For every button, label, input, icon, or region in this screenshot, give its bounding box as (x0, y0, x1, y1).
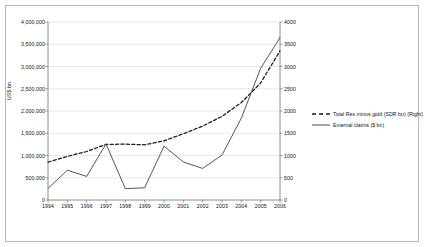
x-tick-label: 1994 (42, 203, 54, 209)
chart-legend: Total Res minus gold (SDR bn) (Right)Ext… (312, 109, 416, 131)
y-tick-label-right: 1000 (284, 153, 296, 159)
x-tick-label: 2003 (216, 203, 228, 209)
y-tick-label-right: 2500 (284, 86, 296, 92)
y-tick-label-left: 1,500,000 (21, 130, 45, 136)
x-tick-label: 2002 (197, 203, 209, 209)
y-tick-label-right: 3000 (284, 64, 296, 70)
plot-svg (48, 22, 280, 200)
series-line-1 (48, 51, 280, 162)
y-tick-label-right: 1500 (284, 130, 296, 136)
x-tick-label: 2000 (158, 203, 170, 209)
y-tick-label-right: 3500 (284, 41, 296, 47)
x-tick-label: 2001 (177, 203, 189, 209)
legend-item[interactable]: Total Res minus gold (SDR bn) (Right) (312, 109, 416, 119)
x-tick-label: 1997 (100, 203, 112, 209)
legend-item[interactable]: External claims ($ bn) (312, 120, 416, 130)
y-tick-label-left: 1,000,000 (21, 153, 45, 159)
legend-label: Total Res minus gold (SDR bn) (Right) (333, 111, 423, 117)
x-tick-label: 1996 (81, 203, 93, 209)
x-tick-label: 1998 (119, 203, 131, 209)
y-tick-label-left: 3,500,000 (21, 41, 45, 47)
y-tick-label-right: 500 (284, 175, 293, 181)
x-tick-label: 2006 (274, 203, 286, 209)
y-tick-label-right: 2000 (284, 108, 296, 114)
x-axis-ticks: 1994199519961997199819992000200120022003… (48, 203, 280, 217)
x-tick-label: 1995 (61, 203, 73, 209)
y-tick-label-left: 4,000,000 (21, 19, 45, 25)
x-tick-label: 2005 (255, 203, 267, 209)
solid-line-icon (312, 121, 330, 129)
y-tick-label-left: 3,000,000 (21, 64, 45, 70)
y-axis-left-ticks: 0500,0001,000,0001,500,0002,000,0002,500… (8, 22, 45, 200)
y-tick-label-right: 4000 (284, 19, 296, 25)
y-tick-label-left: 2,500,000 (21, 86, 45, 92)
series-line-2 (48, 38, 280, 189)
plot-area (48, 22, 280, 200)
x-tick-label: 2004 (235, 203, 247, 209)
y-tick-label-left: 2,000,000 (21, 108, 45, 114)
chart-container: US$ bn 0500,0001,000,0001,500,0002,000,0… (0, 0, 424, 247)
x-tick-label: 1999 (139, 203, 151, 209)
dashed-line-icon (312, 110, 330, 118)
y-axis-right-ticks: 05001000150020002500300035004000 (284, 22, 314, 200)
y-tick-label-left: 500,000 (26, 175, 45, 181)
legend-label: External claims ($ bn) (333, 122, 384, 128)
